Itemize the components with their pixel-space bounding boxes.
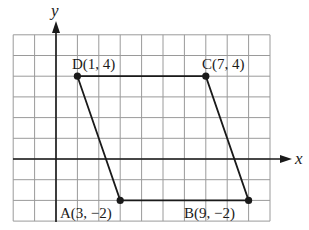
y-axis-arrow-icon	[52, 21, 60, 33]
label-c: C(7, 4)	[202, 56, 245, 73]
label-d: D(1, 4)	[72, 56, 115, 73]
label-b: B(9, −2)	[184, 205, 235, 222]
x-axis-label: x	[294, 149, 303, 168]
x-axis-arrow-icon	[280, 155, 292, 163]
coordinate-plane: x y D(1, 4) C(7, 4) A(3, −2) B(9, −2)	[0, 0, 309, 230]
point-d	[74, 73, 81, 80]
y-axis-label: y	[49, 1, 59, 20]
point-a	[117, 197, 124, 204]
label-a: A(3, −2)	[60, 205, 112, 222]
vertex-labels: D(1, 4) C(7, 4) A(3, −2) B(9, −2)	[60, 56, 245, 222]
point-b	[245, 197, 252, 204]
axes: x y	[13, 1, 303, 222]
point-c	[202, 73, 209, 80]
